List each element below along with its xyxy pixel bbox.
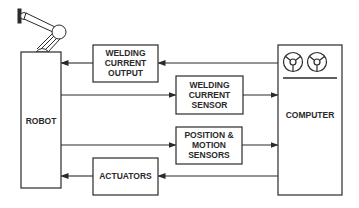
computer-block: COMPUTER [278,45,342,195]
wco-line-3: OUTPUT [108,68,144,78]
wcs-line-3: SENSOR [192,100,228,110]
computer-label: COMPUTER [286,110,335,120]
welding-current-sensor-block: WELDING CURRENT SENSOR [176,76,243,114]
pms-line-3: SENSORS [188,150,230,160]
pms-line-2: MOTION [192,140,226,150]
welding-current-output-block: WELDING CURRENT OUTPUT [93,45,158,82]
position-motion-sensors-block: POSITION & MOTION SENSORS [176,127,242,164]
robot-block: ROBOT [21,52,61,188]
wcs-line-1: WELDING [189,80,230,90]
wcs-line-2: CURRENT [189,90,231,100]
block-diagram: ROBOT WELDING CURRENT OUTPUT WELDING CUR… [0,0,359,208]
wco-line-2: CURRENT [105,58,147,68]
actuators-label: ACTUATORS [99,171,152,181]
robot-arm-icon [18,9,66,52]
wco-line-1: WELDING [105,48,146,58]
pms-line-1: POSITION & [184,130,233,140]
robot-label: ROBOT [26,116,58,126]
actuators-block: ACTUATORS [93,158,158,195]
